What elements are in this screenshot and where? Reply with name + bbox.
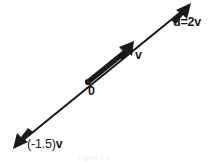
- label-negative-scalar-vector: v: [56, 137, 63, 151]
- label-origin-zero: 0: [88, 85, 95, 98]
- label-negative-scalar-prefix: (-1.5): [27, 137, 56, 151]
- figure-caption-clipped: Figure 4.3: [78, 154, 150, 162]
- vector-diagram-figure: u=2v v 0 (-1.5)v Figure 4.3: [0, 0, 216, 162]
- scalar-multiple-line: [22, 11, 182, 141]
- label-negative-1-5-v: (-1.5)v: [27, 138, 62, 151]
- label-u-equals-2v: u=2v: [173, 16, 201, 29]
- label-v: v: [135, 49, 142, 62]
